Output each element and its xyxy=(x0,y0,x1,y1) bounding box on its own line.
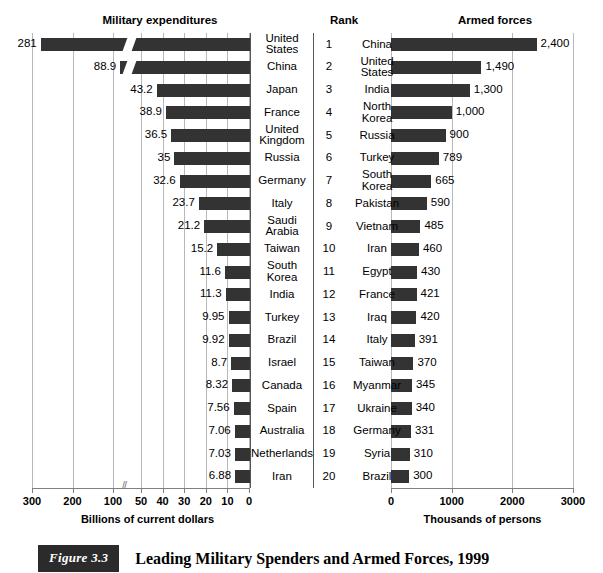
right-country-label: Pakistan xyxy=(346,192,408,215)
label-line: 6 xyxy=(326,152,332,164)
x-axis-tick xyxy=(32,488,33,493)
bar-value-label: 391 xyxy=(419,333,438,346)
bar xyxy=(225,266,250,279)
left-axis-caption: Billions of current dollars xyxy=(40,513,255,525)
label-line: Russia xyxy=(359,130,394,142)
right-axis-caption: Thousands of persons xyxy=(390,513,575,525)
right-country-label: Vietnam xyxy=(346,215,408,238)
label-line: 10 xyxy=(323,243,336,255)
left-country-label: Taiwan xyxy=(252,238,312,261)
bar xyxy=(171,129,250,142)
bar-value-label: 789 xyxy=(443,151,462,164)
right-country-label: Brazil xyxy=(346,465,408,488)
label-line: North xyxy=(362,101,393,113)
right-country-label: Iran xyxy=(346,238,408,261)
bar-row: 88.9 xyxy=(32,56,250,79)
left-country-label: SaudiArabia xyxy=(252,215,312,238)
label-line: Australia xyxy=(260,425,305,437)
bar xyxy=(232,379,250,392)
x-axis-tick-label: 3000 xyxy=(548,495,598,507)
label-line: Italy xyxy=(366,334,387,346)
label-line: Germany xyxy=(353,425,400,437)
rank-label: 9 xyxy=(314,215,344,238)
bar-row: 1,490 xyxy=(391,56,574,79)
right-country-label: Iraq xyxy=(346,306,408,329)
bar-value-label: 460 xyxy=(423,242,442,255)
bar-value-label: 430 xyxy=(421,265,440,278)
rank-label: 15 xyxy=(314,352,344,375)
bar-row: 36.5 xyxy=(32,124,250,147)
label-line: 4 xyxy=(326,107,332,119)
figure-caption: Figure 3.3 Leading Military Spenders and… xyxy=(38,545,489,572)
label-line: Vietnam xyxy=(356,221,398,233)
bar-value-label: 11.6 xyxy=(199,265,221,278)
label-line: Turkey xyxy=(265,312,300,324)
rank-label: 17 xyxy=(314,397,344,420)
left-country-label: China xyxy=(252,56,312,79)
label-line: Korea xyxy=(362,181,393,193)
label-line: 19 xyxy=(323,448,336,460)
label-line: 13 xyxy=(323,312,336,324)
bar-value-label: 370 xyxy=(417,356,436,369)
left-country-label: Brazil xyxy=(252,329,312,352)
label-line: Pakistan xyxy=(355,198,399,210)
bar-row: 9.95 xyxy=(32,306,250,329)
right-country-label: China xyxy=(346,33,408,56)
label-line: Canada xyxy=(262,380,302,392)
left-country-label: Canada xyxy=(252,374,312,397)
bar xyxy=(235,448,250,461)
bar-row: 9.92 xyxy=(32,329,250,352)
bar-row: 7.06 xyxy=(32,420,250,443)
label-line: Taiwan xyxy=(359,357,395,369)
bar xyxy=(226,288,250,301)
left-country-label: Israel xyxy=(252,352,312,375)
left-country-label: SouthKorea xyxy=(252,261,312,284)
bar-row: 590 xyxy=(391,192,574,215)
rank-label: 16 xyxy=(314,374,344,397)
bar-value-label: 1,000 xyxy=(456,105,485,118)
label-line: Ukraine xyxy=(357,403,397,415)
label-line: India xyxy=(365,84,390,96)
label-line: States xyxy=(360,67,393,79)
bar xyxy=(166,106,250,119)
label-line: China xyxy=(362,39,392,51)
x-axis-tick-label: 200 xyxy=(53,495,93,507)
bar-value-label: 665 xyxy=(435,174,454,187)
label-line: Germany xyxy=(258,175,305,187)
label-line: States xyxy=(265,44,298,56)
label-wrapper: SouthKorea xyxy=(362,169,393,192)
left-country-label: Iran xyxy=(252,465,312,488)
bar xyxy=(234,402,250,415)
bar-value-label: 331 xyxy=(415,424,434,437)
label-line: Brazil xyxy=(268,334,297,346)
bar xyxy=(180,175,250,188)
x-axis-tick-label: 0 xyxy=(229,495,269,507)
left-country-label: France xyxy=(252,101,312,124)
label-line: Iran xyxy=(272,471,292,483)
label-line: 8 xyxy=(326,198,332,210)
bar-row: 1,000 xyxy=(391,101,574,124)
left-country-label: Germany xyxy=(252,170,312,193)
rank-label: 1 xyxy=(314,33,344,56)
x-axis-tick xyxy=(452,488,453,493)
label-line: 20 xyxy=(323,471,336,483)
label-line: Arabia xyxy=(265,226,298,238)
x-axis-tick xyxy=(163,488,164,493)
rank-label: 12 xyxy=(314,283,344,306)
bar-row: 6.88 xyxy=(32,465,250,488)
figure-number-badge: Figure 3.3 xyxy=(38,545,119,572)
left-chart-title: Military expenditures xyxy=(65,14,255,26)
x-axis-tick xyxy=(184,488,185,493)
rank-label: 3 xyxy=(314,79,344,102)
bar xyxy=(41,38,250,51)
label-line: 12 xyxy=(323,289,336,301)
label-line: 2 xyxy=(326,61,332,73)
bar-row: 430 xyxy=(391,261,574,284)
bar-value-label: 11.3 xyxy=(200,287,222,300)
x-axis-tick xyxy=(227,488,228,493)
label-wrapper: NorthKorea xyxy=(362,101,393,124)
bar-value-label: 590 xyxy=(431,196,450,209)
bar-value-label: 23.7 xyxy=(172,196,194,209)
bar xyxy=(174,152,250,165)
label-line: Brazil xyxy=(363,471,392,483)
